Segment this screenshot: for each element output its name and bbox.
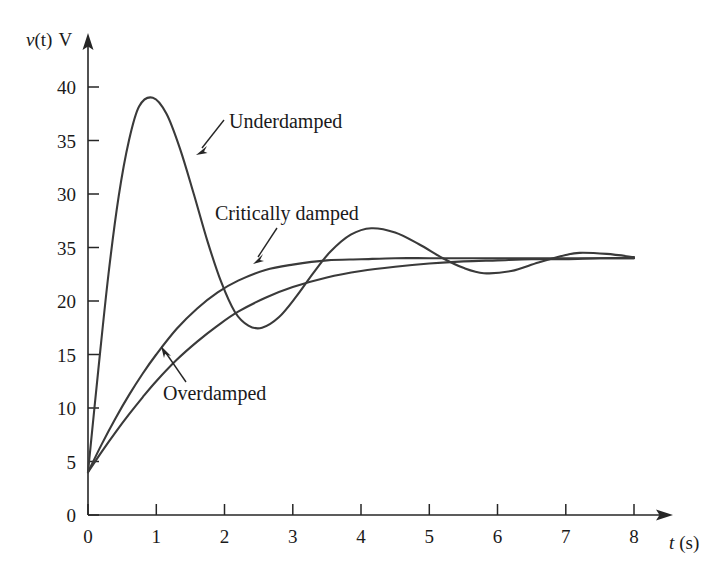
annotation-overdamped: Overdamped xyxy=(161,346,266,405)
annotation-leader-underdamped xyxy=(202,120,224,148)
y-tick-label-35: 35 xyxy=(57,131,76,152)
curve-overdamped xyxy=(88,258,634,472)
curves-group xyxy=(88,97,634,472)
x-axis-title-unit: (s) xyxy=(679,532,699,554)
x-tick-label-8: 8 xyxy=(629,526,639,547)
x-axis-tick-labels: 0 1 2 3 4 5 6 7 8 xyxy=(83,526,639,547)
figure-root: 0 5 10 15 20 35 30 35 40 0 1 2 3 xyxy=(0,0,723,574)
y-axis-title-paren: (t) xyxy=(34,29,52,51)
x-axis-ticks xyxy=(88,504,634,515)
y-tick-label-30: 30 xyxy=(57,184,76,205)
x-tick-label-0: 0 xyxy=(83,526,93,547)
annotation-label-overdamped: Overdamped xyxy=(163,382,266,405)
annotation-leader-critically-damped xyxy=(258,228,277,257)
x-tick-label-4: 4 xyxy=(356,526,366,547)
annotation-label-underdamped: Underdamped xyxy=(229,110,342,133)
x-tick-label-7: 7 xyxy=(561,526,571,547)
x-tick-label-5: 5 xyxy=(425,526,435,547)
y-axis-tick-labels: 0 5 10 15 20 35 30 35 40 xyxy=(57,77,76,526)
x-tick-label-2: 2 xyxy=(220,526,230,547)
y-tick-label-20: 20 xyxy=(57,291,76,312)
damping-response-chart: 0 5 10 15 20 35 30 35 40 0 1 2 3 xyxy=(0,0,723,574)
axes-group xyxy=(83,33,674,521)
y-tick-label-40: 40 xyxy=(57,77,76,98)
annotation-critically-damped: Critically damped xyxy=(215,202,359,264)
x-tick-label-3: 3 xyxy=(288,526,298,547)
y-axis-title: v(t)V xyxy=(26,29,72,51)
y-tick-label-25: 35 xyxy=(57,238,76,259)
y-tick-label-15: 15 xyxy=(57,345,76,366)
x-tick-label-1: 1 xyxy=(152,526,162,547)
annotation-label-critically-damped: Critically damped xyxy=(215,202,359,225)
y-tick-label-5: 5 xyxy=(67,452,77,473)
x-axis-title: t(s) xyxy=(669,532,699,554)
y-axis-title-unit: V xyxy=(58,29,72,50)
x-axis-title-variable: t xyxy=(669,532,675,553)
x-tick-label-6: 6 xyxy=(493,526,503,547)
y-tick-label-0: 0 xyxy=(67,505,77,526)
annotation-arrowhead-overdamped xyxy=(161,346,171,358)
curve-underdamped xyxy=(88,97,634,472)
curve-critically-damped xyxy=(88,258,634,472)
annotation-underdamped: Underdamped xyxy=(196,110,342,155)
y-tick-label-10: 10 xyxy=(57,398,76,419)
